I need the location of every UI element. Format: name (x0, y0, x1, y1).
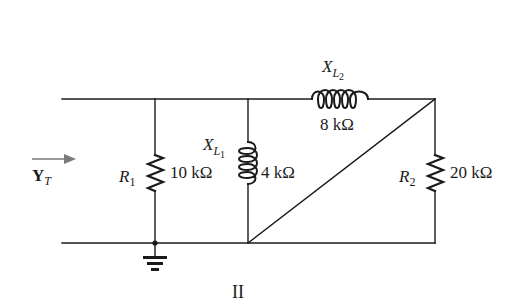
circuit-diagram: YT R1 10 kΩ XL1 4 kΩ XL2 8 kΩ R2 20 kΩ I… (0, 0, 522, 308)
r2-resistor-icon (428, 155, 443, 191)
xl1-value: 4 kΩ (261, 163, 295, 182)
ground-icon (143, 240, 167, 271)
r1-resistor-icon (148, 155, 163, 191)
r2-label: R2 (398, 167, 415, 189)
yt-arrow-icon (32, 154, 76, 164)
xl1-label: XL1 (202, 135, 225, 160)
xl2-label: XL2 (321, 57, 344, 82)
yt-label: YT (32, 166, 52, 188)
xl2-value: 8 kΩ (320, 115, 354, 134)
figure-caption: II (232, 282, 244, 302)
xl1-inductor-icon (239, 142, 257, 184)
xl2-inductor-icon (312, 90, 368, 108)
r2-value: 20 kΩ (450, 163, 492, 182)
r1-value: 10 kΩ (170, 163, 212, 182)
r1-label: R1 (118, 167, 135, 189)
